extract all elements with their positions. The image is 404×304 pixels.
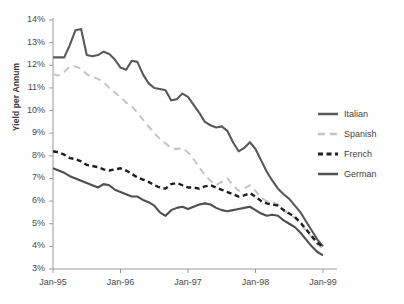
- y-tick-label: 6%: [15, 195, 45, 205]
- legend-swatch-icon: [318, 129, 338, 139]
- y-tick-label: 3%: [15, 263, 45, 273]
- y-tick-label: 10%: [15, 105, 45, 115]
- legend-swatch-icon: [318, 109, 338, 119]
- series-line-italian: [53, 29, 323, 246]
- legend-item-german[interactable]: German: [318, 164, 404, 184]
- legend-label: Italian: [344, 109, 368, 119]
- series-line-german: [53, 168, 323, 255]
- series-line-french: [53, 151, 323, 246]
- y-tick-label: 7%: [15, 172, 45, 182]
- y-tick-label: 13%: [15, 37, 45, 47]
- series-line-spanish: [53, 66, 323, 248]
- y-tick-label: 5%: [15, 218, 45, 228]
- legend-label: Spanish: [344, 129, 377, 139]
- y-tick-label: 4%: [15, 240, 45, 250]
- y-tick-label: 14%: [15, 14, 45, 24]
- x-tick-label: Jan-97: [158, 277, 218, 287]
- y-tick-label: 9%: [15, 127, 45, 137]
- x-tick-label: Jan-95: [23, 277, 83, 287]
- y-tick-label: 11%: [15, 82, 45, 92]
- chart-legend: ItalianSpanishFrenchGerman: [318, 104, 404, 184]
- legend-item-italian[interactable]: Italian: [318, 104, 404, 124]
- y-tick-label: 8%: [15, 150, 45, 160]
- x-tick-label: Jan-98: [226, 277, 286, 287]
- x-tick-label: Jan-96: [91, 277, 151, 287]
- line-chart: Yield per Annum 14%13%12%11%10%9%8%7%6%5…: [0, 0, 404, 304]
- legend-item-spanish[interactable]: Spanish: [318, 124, 404, 144]
- y-tick-label: 12%: [15, 59, 45, 69]
- legend-label: French: [344, 149, 372, 159]
- legend-swatch-icon: [318, 169, 338, 179]
- legend-item-french[interactable]: French: [318, 144, 404, 164]
- legend-label: German: [344, 169, 377, 179]
- x-tick-label: Jan-99: [293, 277, 353, 287]
- legend-swatch-icon: [318, 149, 338, 159]
